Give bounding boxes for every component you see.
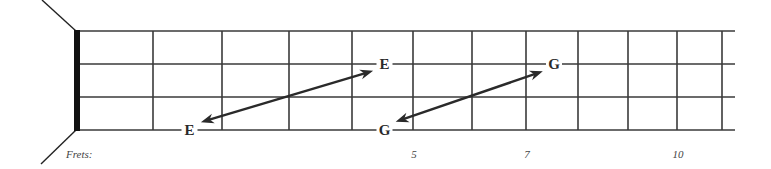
note-e-string4-fret2: E: [182, 122, 198, 138]
headstock-top-edge: [42, 0, 76, 31]
frets-group: [153, 31, 722, 130]
headstock-outline: [41, 0, 76, 164]
fret-numbers-group: 5710: [411, 148, 684, 160]
nut: [74, 30, 80, 131]
frets-caption: Frets:: [65, 148, 92, 160]
note-label: G: [548, 56, 560, 72]
note-label: E: [379, 56, 389, 72]
fret-number-5: 5: [411, 148, 417, 160]
note-label: E: [184, 122, 194, 138]
note-e-string2-fret5: E: [377, 56, 393, 72]
fret-number-7: 7: [524, 148, 530, 160]
fretboard-diagram: EEGG Frets: 5710: [0, 0, 771, 169]
strings-group: [79, 31, 735, 130]
fret-number-10: 10: [673, 148, 685, 160]
note-g-string4-fret5: G: [377, 122, 393, 138]
note-label: G: [379, 122, 391, 138]
note-g-string2-fret8: G: [546, 56, 562, 72]
